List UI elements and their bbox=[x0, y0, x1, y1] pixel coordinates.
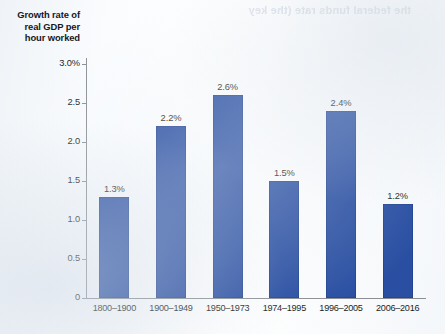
y-axis-tick-label: 0 bbox=[36, 292, 80, 302]
y-axis-title-line-1: Growth rate of bbox=[0, 9, 80, 21]
bar-value-label: 2.6% bbox=[198, 82, 258, 92]
bar[interactable] bbox=[213, 95, 243, 298]
y-axis-tick bbox=[82, 181, 86, 182]
bar-value-label: 1.3% bbox=[84, 184, 144, 194]
y-axis-tick bbox=[82, 259, 86, 260]
y-axis-tick bbox=[82, 220, 86, 221]
y-axis-tick-label: 3.0% bbox=[36, 58, 80, 68]
y-axis-title-line-2: real GDP per bbox=[0, 21, 80, 33]
bar[interactable] bbox=[326, 111, 356, 298]
bar[interactable] bbox=[99, 197, 129, 298]
y-axis-tick bbox=[82, 142, 86, 143]
bar[interactable] bbox=[383, 204, 413, 298]
y-axis-tick bbox=[82, 64, 86, 65]
x-axis-line bbox=[86, 298, 426, 299]
y-axis-tick-label: 1.5 bbox=[36, 175, 80, 185]
bar-value-label: 2.4% bbox=[311, 98, 371, 108]
y-axis-tick-label: 1.0 bbox=[36, 214, 80, 224]
y-axis-tick bbox=[82, 103, 86, 104]
y-axis-tick bbox=[82, 298, 86, 299]
bar[interactable] bbox=[156, 126, 186, 298]
y-axis-title: Growth rate of real GDP per hour worked bbox=[0, 9, 80, 44]
y-axis-title-line-3: hour worked bbox=[0, 32, 80, 44]
x-axis-category-label: 2006–2016 bbox=[364, 303, 432, 313]
bar[interactable] bbox=[269, 181, 299, 298]
scanned-page: the federal funds rate (the key Growth r… bbox=[0, 0, 445, 334]
y-axis-tick-label: 2.0 bbox=[36, 136, 80, 146]
bar-value-label: 1.5% bbox=[254, 168, 314, 178]
bar-value-label: 2.2% bbox=[141, 113, 201, 123]
bar-value-label: 1.2% bbox=[368, 191, 428, 201]
bar-chart: Growth rate of real GDP per hour worked … bbox=[0, 0, 445, 334]
y-axis-tick-label: 2.5 bbox=[36, 97, 80, 107]
y-axis-tick-label: 0.5 bbox=[36, 253, 80, 263]
y-axis-line bbox=[86, 58, 87, 299]
